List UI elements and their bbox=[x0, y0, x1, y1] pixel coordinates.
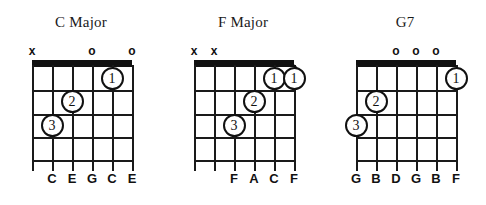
string-line bbox=[416, 65, 418, 171]
muted-string-marker: x bbox=[25, 44, 39, 58]
note-label: C bbox=[44, 171, 60, 187]
note-label: C bbox=[104, 171, 120, 187]
open-string-marker: o bbox=[389, 44, 403, 58]
finger-position: 3 bbox=[345, 114, 368, 137]
finger-position: 2 bbox=[365, 90, 388, 113]
note-label: F bbox=[448, 171, 464, 187]
note-label: C bbox=[266, 171, 282, 187]
open-string-marker: o bbox=[125, 44, 139, 58]
chord-diagram: F Majorxx1123FACF bbox=[162, 0, 324, 205]
fret-line bbox=[356, 160, 456, 162]
chord-title: G7 bbox=[324, 14, 486, 31]
string-line bbox=[72, 65, 74, 171]
fret-line bbox=[32, 90, 132, 92]
chord-chart-figure: C Majorxoo123CEGCEF Majorxx1123FACFG7ooo… bbox=[0, 0, 486, 205]
note-label: E bbox=[64, 171, 80, 187]
open-string-marker: o bbox=[429, 44, 443, 58]
note-label: F bbox=[226, 171, 242, 187]
note-label: B bbox=[368, 171, 384, 187]
finger-position: 2 bbox=[243, 90, 266, 113]
muted-string-marker: x bbox=[207, 44, 221, 58]
open-string-marker: o bbox=[409, 44, 423, 58]
fret-line bbox=[32, 137, 132, 139]
nut-bar bbox=[32, 60, 132, 67]
finger-position: 2 bbox=[61, 90, 84, 113]
string-line bbox=[396, 65, 398, 171]
chord-title: F Major bbox=[162, 14, 324, 31]
note-label: G bbox=[408, 171, 424, 187]
note-label: G bbox=[348, 171, 364, 187]
finger-position: 1 bbox=[101, 67, 124, 90]
finger-position: 1 bbox=[283, 67, 306, 90]
finger-position: 3 bbox=[41, 114, 64, 137]
open-string-marker: o bbox=[85, 44, 99, 58]
string-line bbox=[254, 65, 256, 171]
note-label: A bbox=[246, 171, 262, 187]
note-label-row: GBDGBF bbox=[324, 171, 486, 191]
string-line bbox=[214, 65, 216, 171]
note-label: G bbox=[84, 171, 100, 187]
fret-line bbox=[194, 137, 294, 139]
note-label-row: FACF bbox=[162, 171, 324, 191]
finger-position: 3 bbox=[223, 114, 246, 137]
fret-line bbox=[32, 160, 132, 162]
fret-line bbox=[356, 114, 456, 116]
string-line bbox=[194, 65, 196, 171]
fret-line bbox=[194, 160, 294, 162]
note-label: B bbox=[428, 171, 444, 187]
string-line bbox=[436, 65, 438, 171]
chord-diagram: G7ooo123GBDGBF bbox=[324, 0, 486, 205]
fret-line bbox=[194, 90, 294, 92]
fret-line bbox=[194, 114, 294, 116]
nut-bar bbox=[356, 60, 456, 67]
string-marker-row: xx bbox=[162, 44, 324, 60]
note-label-row: CEGCE bbox=[0, 171, 162, 191]
fret-line bbox=[356, 137, 456, 139]
string-line bbox=[92, 65, 94, 171]
string-marker-row: ooo bbox=[324, 44, 486, 60]
note-label: F bbox=[286, 171, 302, 187]
string-line bbox=[376, 65, 378, 171]
string-marker-row: xoo bbox=[0, 44, 162, 60]
chord-diagram: C Majorxoo123CEGCE bbox=[0, 0, 162, 205]
string-line bbox=[32, 65, 34, 171]
note-label: E bbox=[124, 171, 140, 187]
finger-position: 1 bbox=[445, 67, 468, 90]
string-line bbox=[132, 65, 134, 171]
chord-title: C Major bbox=[0, 14, 162, 31]
muted-string-marker: x bbox=[187, 44, 201, 58]
note-label: D bbox=[388, 171, 404, 187]
